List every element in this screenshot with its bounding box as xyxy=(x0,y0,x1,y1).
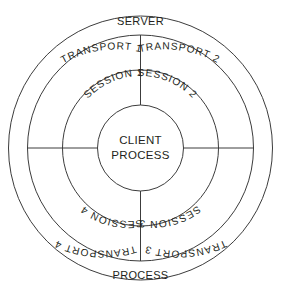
core-label-line2: PROCESS xyxy=(111,149,169,161)
outer-band-bottom-label: PROCESS xyxy=(113,269,169,281)
diagram-canvas: SERVER PROCESS CLIENT PROCESS TRANSPORT … xyxy=(0,0,281,296)
session-label-4: SESSION 4 xyxy=(78,204,143,230)
session-label-3: SESSION 3 xyxy=(138,204,203,230)
core-label-line1: CLIENT xyxy=(119,134,162,146)
session-label-2: SESSION 2 xyxy=(138,67,200,100)
outer-band-top-label: SERVER xyxy=(117,15,164,27)
concentric-ring-diagram: SERVER PROCESS CLIENT PROCESS TRANSPORT … xyxy=(0,0,281,296)
transport-label-1: TRANSPORT 1 xyxy=(59,40,143,65)
transport-label-2: TRANSPORT 2 xyxy=(138,40,222,65)
core-circle xyxy=(98,105,184,191)
session-label-1: SESSION 1 xyxy=(81,67,143,100)
